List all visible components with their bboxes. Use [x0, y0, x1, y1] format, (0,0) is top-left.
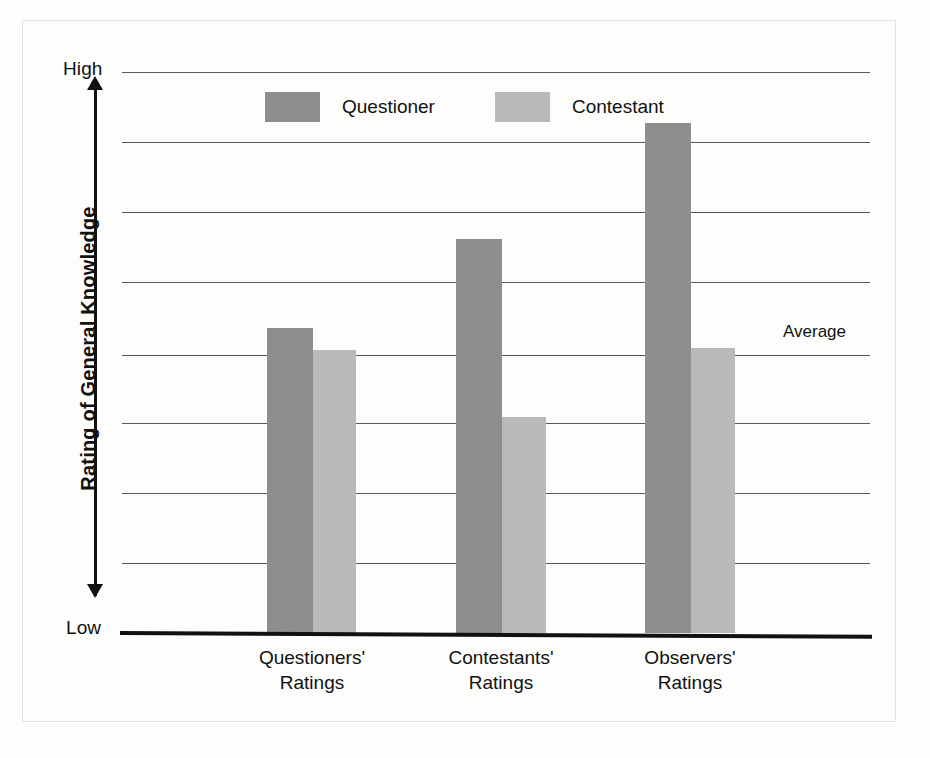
x-label-contestants-ratings: Contestants' Ratings [401, 645, 601, 695]
x-label-line2: Ratings [401, 670, 601, 695]
y-axis-high-label: High [63, 58, 102, 80]
bar-questioner-observers-ratings[interactable] [645, 123, 691, 633]
legend-swatch-contestant-icon [495, 92, 550, 122]
x-label-line1: Questioners' [212, 645, 412, 670]
x-label-observers-ratings: Observers' Ratings [590, 645, 790, 695]
bar-contestant-observers-ratings[interactable] [691, 348, 735, 633]
bar-questioner-questioners-ratings[interactable] [267, 328, 313, 633]
x-label-line2: Ratings [212, 670, 412, 695]
y-axis-low-label: Low [66, 617, 101, 639]
bar-questioner-contestants-ratings[interactable] [456, 239, 502, 633]
gridline-6 [122, 212, 870, 213]
plot-area: High Low Rating of General Knowledge Que… [0, 0, 930, 758]
x-label-line1: Contestants' [401, 645, 601, 670]
gridline-high [122, 72, 870, 73]
legend-item-questioner[interactable]: Questioner [265, 92, 435, 122]
x-label-questioners-ratings: Questioners' Ratings [212, 645, 412, 695]
average-annotation-label: Average [783, 322, 846, 342]
x-label-line2: Ratings [590, 670, 790, 695]
bar-contestant-questioners-ratings[interactable] [313, 350, 356, 633]
y-axis-title: Rating of General Knowledge [77, 89, 100, 609]
chart-figure: High Low Rating of General Knowledge Que… [0, 0, 930, 758]
legend-item-contestant[interactable]: Contestant [495, 92, 664, 122]
bar-contestant-contestants-ratings[interactable] [502, 417, 546, 633]
chart-legend: Questioner Contestant [265, 92, 664, 122]
legend-label-contestant: Contestant [572, 96, 664, 118]
gridline-7 [122, 142, 870, 143]
x-axis-baseline [120, 631, 872, 639]
legend-swatch-questioner-icon [265, 92, 320, 122]
x-label-line1: Observers' [590, 645, 790, 670]
x-axis-labels: Questioners' Ratings Contestants' Rating… [0, 645, 930, 725]
legend-label-questioner: Questioner [342, 96, 435, 118]
